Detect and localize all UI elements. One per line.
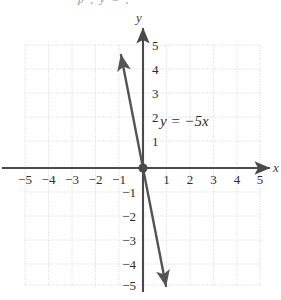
y-tick-label: 1: [152, 134, 159, 149]
figure-coordinate-plane: p , y = ,: [0, 0, 281, 300]
y-tick-label: −3: [122, 233, 136, 248]
y-tick-label: −5: [122, 278, 136, 293]
x-axis-label: x: [272, 160, 279, 175]
x-tick-label: −2: [89, 172, 103, 187]
x-tick-label: 2: [187, 172, 194, 187]
graph-svg: y x −5 −4 −3 −2 −1 1 2 3 4 5 5 4 3 2 1 −…: [0, 0, 281, 300]
x-tick-labels-negative: −5 −4 −3 −2 −1: [18, 172, 126, 187]
y-tick-label: 3: [152, 86, 159, 101]
y-tick-labels-positive: 5 4 3 2 1: [152, 38, 159, 149]
plotted-line-upper-ray: [121, 55, 143, 168]
x-tick-label: 4: [234, 172, 241, 187]
y-tick-label: −1: [122, 185, 136, 200]
y-tick-label: 2: [152, 110, 159, 125]
x-tick-label: 3: [210, 172, 217, 187]
y-tick-label: −4: [122, 257, 136, 272]
y-tick-label: −2: [122, 209, 136, 224]
x-tick-label: −3: [65, 172, 79, 187]
y-tick-label: 4: [152, 62, 159, 77]
x-tick-label: −4: [42, 172, 56, 187]
x-tick-label: −5: [18, 172, 32, 187]
y-tick-labels-negative: −1 −2 −3 −4 −5: [122, 185, 136, 293]
x-tick-label: 1: [163, 172, 170, 187]
x-tick-labels-positive: 1 2 3 4 5: [163, 172, 263, 187]
equation-label: y = −5x: [158, 113, 209, 129]
origin-point-marker: [138, 163, 147, 172]
y-tick-label: 5: [152, 38, 159, 53]
x-tick-label: 5: [257, 172, 264, 187]
y-axis-label: y: [134, 10, 142, 25]
